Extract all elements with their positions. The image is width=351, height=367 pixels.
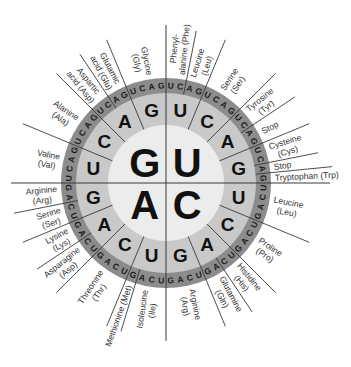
amino-acid-label: Serine(Ser) xyxy=(218,66,249,98)
amino-acid-label: Arginine(Arg) xyxy=(25,184,59,207)
amino-acid-label-line: Methionine (Met) xyxy=(103,284,134,348)
first-base-letter-u: U xyxy=(173,141,202,185)
second-base-letter: G xyxy=(231,158,246,179)
third-base-letter: U xyxy=(258,184,268,191)
first-base-letter-c: C xyxy=(173,183,202,227)
third-base-letter: G xyxy=(158,80,165,90)
genetic-code-wheel: UCAGUCAGUCAGUCAGUCAGUCAGUCAGUCAGUCAGUCAG… xyxy=(0,0,351,367)
second-base-letter: U xyxy=(87,158,101,179)
amino-acid-label: Stop xyxy=(260,119,280,136)
third-base-letter: G xyxy=(63,184,73,191)
amino-acid-label-line: Stop xyxy=(273,159,292,172)
amino-acid-label-line: Tryptophan (Trp) xyxy=(275,170,339,183)
second-base-letter: A xyxy=(221,131,235,152)
second-base-letter: A xyxy=(98,214,112,235)
amino-acid-label-line: Stop xyxy=(260,119,280,136)
amino-acid-label-line: (Arg) xyxy=(32,194,52,206)
amino-acid-label: Threonine(Thr) xyxy=(76,268,114,311)
amino-acid-label: Phenyl-alanine (Phe) xyxy=(167,23,192,76)
first-base-letter-g: G xyxy=(129,141,160,185)
amino-acid-label: Tryptophan (Trp) xyxy=(275,170,339,183)
amino-acid-label: Tyrosine(Tyr) xyxy=(244,85,282,121)
amino-acid-label: Isoleucine(Ile) xyxy=(134,289,159,330)
second-base-letter: G xyxy=(144,100,159,121)
second-base-letter: U xyxy=(232,187,246,208)
second-base-letter: C xyxy=(98,131,112,152)
amino-acid-label: Valine(Val) xyxy=(34,147,61,171)
second-base-letter: A xyxy=(200,234,214,255)
third-base-letter: G xyxy=(167,275,174,285)
amino-acid-label-line: (Val) xyxy=(37,158,56,171)
second-base-letter: A xyxy=(118,111,132,132)
divider-lines xyxy=(11,25,332,341)
amino-acid-label-line: (Ile) xyxy=(146,303,158,319)
second-base-letter: C xyxy=(221,214,235,235)
amino-acid-label: Arginine(Arg) xyxy=(177,288,203,323)
amino-acid-label: Methionine (Met) xyxy=(103,284,134,348)
second-base-letter: G xyxy=(86,187,101,208)
second-base-letter: C xyxy=(118,234,132,255)
third-base-letter: G xyxy=(258,175,268,182)
first-base-letter-a: A xyxy=(130,183,159,227)
second-base-letter: G xyxy=(173,245,188,266)
amino-acid-label: Glycine(Gly) xyxy=(129,46,154,78)
third-base-letter: U xyxy=(158,275,165,285)
amino-acid-label: Stop xyxy=(273,159,292,172)
amino-acid-label: Proline(Pro) xyxy=(251,235,285,267)
second-base-letter: C xyxy=(200,111,214,132)
second-base-letter: U xyxy=(145,245,159,266)
second-base-letter: U xyxy=(174,100,188,121)
amino-acid-label: Leucine(Leu) xyxy=(271,194,305,220)
third-base-letter: U xyxy=(63,175,73,182)
third-base-letter: U xyxy=(167,80,174,90)
amino-acid-label-line: alanine (Phe) xyxy=(177,24,192,76)
amino-acid-label: Alanine(Ala) xyxy=(46,98,81,131)
